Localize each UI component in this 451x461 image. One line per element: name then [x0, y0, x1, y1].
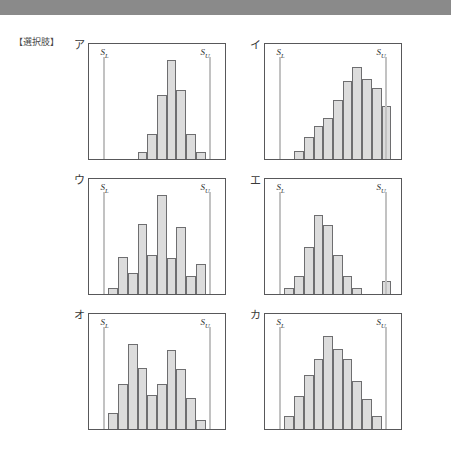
spec-subscript: L — [281, 322, 285, 329]
histogram-bar — [372, 416, 382, 429]
histogram-bar — [147, 255, 157, 294]
histogram-bar — [352, 67, 362, 159]
histogram-bar — [108, 413, 118, 429]
spec-subscript: U — [205, 322, 210, 329]
histogram-bar — [157, 384, 167, 429]
upper-spec-limit-line — [209, 192, 211, 294]
histogram-bar — [157, 95, 167, 159]
lower-spec-limit-label: SL — [277, 183, 285, 194]
histogram-bar — [196, 152, 206, 159]
lower-spec-limit-label: SL — [101, 48, 109, 59]
top-banner — [0, 0, 451, 15]
histogram-bar — [333, 255, 343, 294]
choice-panel-ウ: ウSLSU — [74, 175, 228, 298]
histogram-bar — [294, 276, 304, 294]
spec-subscript: L — [105, 187, 109, 194]
panel-label: エ — [250, 175, 261, 186]
histogram-bar — [138, 368, 148, 429]
page-sheet: 【選択肢】 アSLSUイSLSUウSLSUエSLSUオSLSUカSLSU — [0, 15, 451, 461]
lower-spec-limit-label: SL — [101, 183, 109, 194]
histogram-bar — [138, 224, 148, 294]
histogram-bar — [284, 288, 294, 294]
histogram-plot: SLSU — [88, 313, 226, 430]
plot-area: SLSU — [89, 179, 225, 294]
histogram-bar — [352, 288, 362, 294]
choice-panel-エ: エSLSU — [250, 175, 404, 298]
histogram-bar — [333, 349, 343, 430]
histogram-bar — [196, 264, 206, 294]
histogram-bar — [186, 398, 196, 429]
choice-panel-イ: イSLSU — [250, 40, 404, 163]
spec-subscript: L — [105, 322, 109, 329]
histogram-bar — [157, 195, 167, 294]
lower-spec-limit-line — [279, 57, 281, 159]
histogram-plot: SLSU — [264, 43, 402, 160]
bars-layer — [89, 179, 225, 294]
lower-spec-limit-line — [279, 327, 281, 429]
lower-spec-limit-line — [103, 57, 105, 159]
histogram-bar — [294, 151, 304, 159]
histogram-bar — [362, 79, 372, 160]
upper-spec-limit-line — [209, 327, 211, 429]
histogram-bar — [167, 350, 177, 429]
upper-spec-limit-label: SU — [376, 48, 385, 59]
histogram-bar — [118, 384, 128, 429]
histogram-plot: SLSU — [88, 178, 226, 295]
spec-subscript: U — [205, 187, 210, 194]
histogram-bar — [304, 375, 314, 429]
upper-spec-limit-label: SU — [376, 183, 385, 194]
histogram-bar — [304, 247, 314, 294]
histogram-bar — [323, 225, 333, 294]
histogram-bar — [294, 396, 304, 429]
histogram-bar — [314, 359, 324, 429]
histogram-bar — [128, 273, 138, 294]
panel-label: ウ — [74, 175, 85, 186]
lower-spec-limit-label: SL — [101, 318, 109, 329]
histogram-bar — [176, 90, 186, 159]
upper-spec-limit-line — [385, 327, 387, 429]
plot-area: SLSU — [89, 314, 225, 429]
choice-panel-カ: カSLSU — [250, 310, 404, 433]
histogram-bar — [284, 416, 294, 429]
histogram-bar — [333, 100, 343, 159]
histogram-bar — [118, 257, 128, 294]
plot-area: SLSU — [89, 44, 225, 159]
histogram-bar — [352, 381, 362, 429]
plot-area: SLSU — [265, 179, 401, 294]
upper-spec-limit-label: SU — [200, 48, 209, 59]
histogram-plot: SLSU — [264, 178, 402, 295]
upper-spec-limit-line — [385, 192, 387, 294]
histogram-bar — [167, 258, 177, 294]
histogram-bar — [147, 395, 157, 430]
spec-subscript: U — [381, 322, 386, 329]
choices-label: 【選択肢】 — [14, 35, 59, 48]
histogram-bar — [176, 227, 186, 294]
histogram-bar — [147, 134, 157, 159]
histogram-bar — [128, 344, 138, 429]
choice-panel-オ: オSLSU — [74, 310, 228, 433]
histogram-bar — [362, 399, 372, 429]
histogram-bar — [372, 88, 382, 159]
spec-subscript: L — [281, 52, 285, 59]
upper-spec-limit-line — [385, 57, 387, 159]
bars-layer — [89, 314, 225, 429]
panel-label: イ — [250, 40, 261, 51]
panel-label: カ — [250, 310, 261, 321]
plot-area: SLSU — [265, 44, 401, 159]
panel-label: オ — [74, 310, 85, 321]
panel-label: ア — [74, 40, 85, 51]
histogram-bar — [176, 369, 186, 429]
lower-spec-limit-line — [103, 192, 105, 294]
histogram-bar — [323, 118, 333, 159]
histogram-bar — [186, 276, 196, 294]
histogram-bar — [108, 288, 118, 294]
spec-subscript: U — [381, 52, 386, 59]
spec-subscript: L — [281, 187, 285, 194]
histogram-bar — [138, 152, 148, 159]
lower-spec-limit-label: SL — [277, 48, 285, 59]
histogram-bar — [167, 60, 177, 159]
histogram-bar — [343, 359, 353, 429]
lower-spec-limit-line — [103, 327, 105, 429]
histogram-bar — [314, 215, 324, 294]
histogram-bar — [196, 420, 206, 429]
